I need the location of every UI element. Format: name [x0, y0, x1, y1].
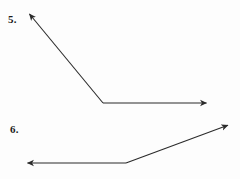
ray-up-right — [126, 125, 228, 163]
ray-up-left — [30, 14, 104, 103]
angle-figure-6 — [28, 125, 228, 163]
figure-5-number-label: 5. — [8, 14, 17, 25]
angle-figures-canvas — [0, 0, 240, 179]
angle-figure-5 — [30, 14, 207, 103]
figure-6-number-label: 6. — [10, 124, 19, 135]
worksheet-page: 5. 6. — [0, 0, 240, 179]
